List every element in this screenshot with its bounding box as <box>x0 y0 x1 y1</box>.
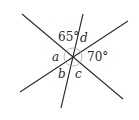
angle-label-70: 70° <box>87 50 108 64</box>
angle-label-b: b <box>58 67 66 81</box>
intersecting-lines-diagram: 65° d a 70° b c <box>0 0 139 120</box>
angle-label-d: d <box>80 31 88 45</box>
angle-label-65: 65° <box>58 30 79 44</box>
line-steep <box>61 14 83 108</box>
angle-label-a: a <box>52 50 59 64</box>
angle-label-c: c <box>75 67 82 81</box>
